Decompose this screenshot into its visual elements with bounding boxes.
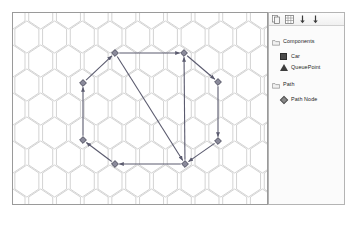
legend-item-path-node[interactable]: Path Node bbox=[279, 95, 344, 104]
hexagon-tile bbox=[29, 13, 53, 29]
hexagon-tile bbox=[140, 13, 164, 29]
legend-item-queuepoint[interactable]: QueuePoint bbox=[279, 63, 344, 72]
hexagon-tile bbox=[56, 189, 80, 204]
path-node[interactable]: Path Node bbox=[182, 161, 189, 168]
hexagon-tile bbox=[13, 93, 25, 125]
hexagon-tile-layer bbox=[13, 13, 267, 204]
legend-item-label: QueuePoint bbox=[291, 64, 320, 71]
legend-item-label: Path Node bbox=[291, 96, 317, 103]
path-node-swatch-icon bbox=[279, 95, 288, 104]
hexagon-tile bbox=[195, 189, 219, 204]
path-node[interactable]: Path Node bbox=[112, 50, 119, 57]
hexagon-tile bbox=[167, 13, 191, 29]
legend-item-label: Car bbox=[291, 53, 300, 60]
legend-body: Components Car QueuePoint bbox=[269, 26, 344, 104]
path-edge[interactable] bbox=[188, 143, 214, 161]
legend-item-car[interactable]: Car bbox=[279, 52, 344, 61]
table-icon[interactable] bbox=[284, 14, 295, 25]
hexagon-tile bbox=[223, 13, 247, 29]
hexagon-tile bbox=[13, 189, 25, 204]
hexagon-tile bbox=[112, 13, 136, 29]
hexagon-tile bbox=[195, 13, 219, 29]
path-node[interactable]: Path Node bbox=[215, 79, 222, 86]
path-edge[interactable] bbox=[117, 57, 183, 161]
path-node[interactable]: Path Node bbox=[80, 137, 87, 144]
hexagon-tile bbox=[84, 13, 108, 29]
folder-icon bbox=[272, 75, 280, 93]
folder-icon bbox=[272, 32, 280, 50]
path-node[interactable]: Path Node bbox=[80, 80, 87, 87]
car-swatch-icon bbox=[279, 52, 288, 61]
copy-icon[interactable] bbox=[271, 14, 282, 25]
hexagon-tile bbox=[29, 189, 53, 204]
move-down-icon[interactable] bbox=[297, 14, 308, 25]
legend-group-label: Path bbox=[283, 81, 295, 88]
hexagon-tile bbox=[84, 189, 108, 204]
legend-group-label: Components bbox=[283, 38, 315, 45]
hex-grid-canvas[interactable]: Path NodePath NodePath NodePath NodePath… bbox=[12, 12, 268, 205]
hexagon-tile bbox=[112, 189, 136, 204]
application-root: Path NodePath NodePath NodePath NodePath… bbox=[0, 0, 362, 225]
legend-panel: Components Car QueuePoint bbox=[268, 12, 345, 205]
legend-toolbar bbox=[269, 13, 344, 26]
hexagon-tile bbox=[13, 141, 25, 173]
path-node[interactable]: Path Node bbox=[215, 138, 222, 145]
hexagon-tile bbox=[13, 45, 25, 77]
hexagon-tile bbox=[223, 189, 247, 204]
hexagon-tile bbox=[140, 189, 164, 204]
canvas-svg: Path NodePath NodePath NodePath NodePath… bbox=[13, 13, 267, 204]
move-down-alt-icon[interactable] bbox=[310, 14, 321, 25]
path-node[interactable]: Path Node bbox=[181, 50, 188, 57]
hexagon-tile bbox=[56, 13, 80, 29]
queuepoint-swatch-icon bbox=[279, 63, 288, 72]
legend-group-path[interactable]: Path bbox=[272, 75, 344, 93]
hexagon-tile bbox=[250, 13, 267, 29]
hexagon-tile bbox=[167, 189, 191, 204]
legend-group-components[interactable]: Components bbox=[272, 32, 344, 50]
hexagon-tile bbox=[250, 189, 267, 204]
